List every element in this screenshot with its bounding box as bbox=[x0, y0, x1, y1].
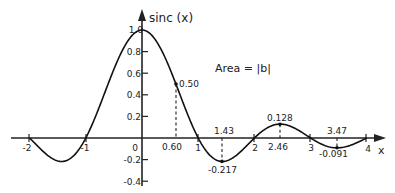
y-tick-label: 0.4 bbox=[127, 90, 142, 100]
x-axis-arrow-icon bbox=[374, 134, 386, 142]
annotation-x: 3.47 bbox=[327, 126, 347, 136]
x-tick-label: 3 bbox=[308, 143, 314, 153]
point-marker bbox=[220, 160, 224, 164]
annotation-labels: 0.50 0.60 -0.217 1.43 0.128 2.46 -0.091 … bbox=[162, 79, 348, 175]
annotation-value: 0.50 bbox=[179, 79, 199, 89]
annotation-x: 0.60 bbox=[162, 142, 182, 152]
y-ticks bbox=[142, 52, 148, 182]
y-tick-labels: 1.0 0.8 0.6 0.4 0.2 -0.2 -0.4 bbox=[123, 25, 143, 187]
x-tick-label: 1 bbox=[195, 143, 201, 153]
y-tick-label: 0.2 bbox=[127, 112, 141, 122]
annotation-value: -0.091 bbox=[319, 149, 348, 159]
x-axis-title: x bbox=[378, 144, 385, 157]
y-tick-label: 0.8 bbox=[127, 47, 142, 57]
annotation-x: 1.43 bbox=[214, 126, 234, 136]
y-tick-label: 0.6 bbox=[127, 69, 142, 79]
point-marker bbox=[174, 82, 178, 86]
x-tick-label: -2 bbox=[23, 143, 32, 153]
annotation-value: -0.217 bbox=[208, 165, 237, 175]
y-axis-arrow-icon bbox=[138, 9, 146, 21]
area-annotation: Area = |b| bbox=[215, 62, 271, 75]
annotation-x: 2.46 bbox=[268, 142, 288, 152]
y-tick-label: -0.4 bbox=[123, 177, 141, 187]
sinc-plot: 1.0 0.8 0.6 0.4 0.2 -0.2 -0.4 -2 -1 0 1 … bbox=[0, 0, 395, 193]
x-tick-label: 4 bbox=[365, 144, 371, 154]
annotation-value: 0.128 bbox=[267, 113, 293, 123]
y-axis-title: sinc (x) bbox=[149, 11, 193, 25]
x-tick-label: 2 bbox=[252, 143, 258, 153]
y-tick-label: -0.2 bbox=[123, 155, 141, 165]
origin-label: 0 bbox=[132, 143, 138, 153]
